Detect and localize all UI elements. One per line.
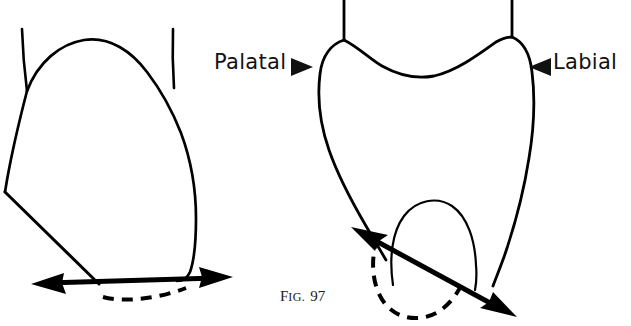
left-tooth-arrowhead-right [199,267,233,288]
right-tooth-incisal-edge [344,37,512,77]
right-tooth-diagram [319,0,534,318]
right-tooth-palatal-profile [319,40,386,260]
labial-label: Labial [553,52,617,73]
figure-drawing [0,0,631,326]
left-tooth-cervical-diagonal [5,192,99,284]
left-tooth-arrow-shaft [47,278,216,283]
caption-prefix-smallcaps: IG. [288,290,305,304]
right-tooth-arrow-shaft [365,235,503,310]
right-tooth-labial-profile [493,37,534,286]
palatal-label: Palatal [214,52,286,73]
left-tooth-diagram [5,29,233,300]
left-tooth-root-line-mesial [22,29,27,91]
left-tooth-crown-outline [27,39,196,281]
palatal-pointer-triangle [291,58,313,76]
right-tooth-inner-arch [391,201,476,290]
left-tooth-root-line-distal [173,29,174,88]
left-tooth-mesial-flank [5,91,27,192]
caption-number: 97 [310,288,325,304]
figure-container: Palatal Labial FIG.97 [0,0,631,326]
right-tooth-arrowhead-lower-right [480,292,517,317]
figure-caption: FIG.97 [280,288,325,304]
right-tooth-dashed-curve [373,238,463,318]
left-tooth-arrowhead-left [31,273,66,294]
left-tooth-dashed-curve [103,288,186,300]
